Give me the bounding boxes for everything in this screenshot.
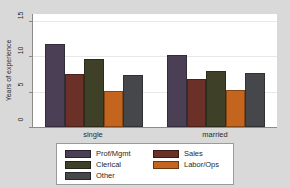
gridline bbox=[33, 56, 277, 57]
plot-area bbox=[32, 14, 277, 128]
legend-swatch-icon bbox=[65, 172, 91, 180]
legend-item-label: Sales bbox=[184, 149, 203, 158]
legend-item-labor-ops[interactable]: Labor/Ops bbox=[153, 160, 219, 169]
y-axis-tick-label: 15 bbox=[17, 12, 24, 28]
legend-item-other[interactable]: Other bbox=[65, 171, 115, 180]
bar-sales-married bbox=[187, 79, 207, 127]
y-axis-tick bbox=[29, 21, 33, 22]
x-axis-label-married: married bbox=[154, 130, 276, 139]
bar-prof-mgmt-married bbox=[167, 55, 187, 127]
legend-item-prof-mgmt[interactable]: Prof/Mgmt bbox=[65, 149, 131, 158]
legend-item-label: Clerical bbox=[96, 160, 121, 169]
legend-swatch-icon bbox=[153, 161, 179, 169]
y-axis-tick bbox=[29, 92, 33, 93]
gridline bbox=[33, 21, 277, 22]
y-axis-tick-label: 5 bbox=[17, 82, 24, 98]
legend-item-label: Labor/Ops bbox=[184, 160, 219, 169]
bar-other-single bbox=[123, 75, 143, 127]
legend-swatch-icon bbox=[153, 150, 179, 158]
y-axis-tick bbox=[29, 127, 33, 128]
plot-inner bbox=[33, 14, 277, 127]
legend-item-label: Other bbox=[96, 171, 115, 180]
legend: Prof/MgmtClericalOtherSalesLabor/Ops bbox=[56, 143, 234, 185]
bar-labor-ops-married bbox=[226, 90, 246, 127]
bar-labor-ops-single bbox=[104, 91, 124, 127]
x-axis-label-single: single bbox=[32, 130, 154, 139]
y-axis-tick bbox=[29, 56, 33, 57]
y-axis-title: Years of experience bbox=[4, 14, 14, 127]
bar-other-married bbox=[245, 73, 265, 127]
bar-prof-mgmt-single bbox=[45, 44, 65, 127]
y-axis-tick-label: 0 bbox=[17, 118, 24, 134]
legend-item-clerical[interactable]: Clerical bbox=[65, 160, 121, 169]
legend-swatch-icon bbox=[65, 150, 91, 158]
bar-clerical-married bbox=[206, 71, 226, 128]
bar-chart-figure: Years of experience 051015 singlemarried… bbox=[0, 0, 290, 188]
legend-item-label: Prof/Mgmt bbox=[96, 149, 131, 158]
y-axis-tick-label: 10 bbox=[17, 47, 24, 63]
bar-sales-single bbox=[65, 74, 85, 127]
legend-item-sales[interactable]: Sales bbox=[153, 149, 203, 158]
y-axis-title-label: Years of experience bbox=[6, 40, 13, 102]
legend-swatch-icon bbox=[65, 161, 91, 169]
bar-clerical-single bbox=[84, 59, 104, 128]
